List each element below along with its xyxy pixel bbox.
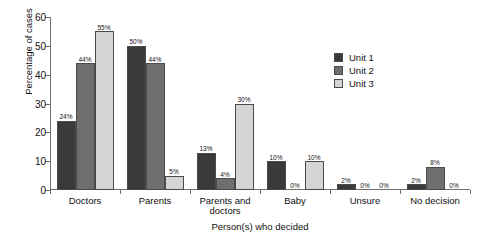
bar-value-label: 10% — [269, 155, 282, 162]
bar-value-label: 0% — [360, 183, 369, 190]
bar[interactable]: 5% — [165, 176, 184, 190]
bar-group-bars: 2%0%0% — [337, 17, 394, 190]
bar-group: 50%44%5%Parents — [120, 17, 190, 190]
bar[interactable]: 24% — [57, 121, 76, 190]
bar-group: 13%4%30%Parents and doctors — [190, 17, 260, 190]
bar-value-label: 0% — [449, 183, 458, 190]
y-tick-label: 50 — [35, 40, 46, 51]
y-tick-label: 40 — [35, 69, 46, 80]
bar[interactable]: 44% — [76, 63, 95, 190]
bar[interactable]: 30% — [235, 104, 254, 191]
legend-label: Unit 1 — [349, 52, 374, 63]
bar-value-label: 30% — [237, 97, 250, 104]
bar[interactable]: 50% — [127, 46, 146, 190]
x-tick-mark — [330, 190, 331, 194]
bar-value-label: 44% — [148, 57, 161, 64]
bar[interactable]: 2% — [337, 184, 356, 190]
bar-group-bars: 2%8%0% — [407, 17, 464, 190]
bar-value-label: 2% — [341, 178, 350, 185]
bar-value-label: 4% — [220, 172, 229, 179]
x-tick-mark — [50, 190, 51, 194]
bar-groups: 24%44%55%Doctors50%44%5%Parents13%4%30%P… — [50, 17, 470, 190]
bar-group: 2%8%0%No decision — [400, 17, 470, 190]
legend-label: Unit 2 — [349, 65, 374, 76]
bar-group: 2%0%0%Unsure — [330, 17, 400, 190]
legend-item[interactable]: Unit 1 — [334, 52, 374, 63]
bar-value-label: 10% — [307, 155, 320, 162]
bar-value-label: 24% — [59, 114, 72, 121]
bar[interactable]: 55% — [95, 31, 114, 190]
bar-group: 10%0%10%Baby — [260, 17, 330, 190]
x-tick-label: Baby — [260, 196, 330, 206]
bar[interactable]: 4% — [216, 178, 235, 190]
bar-value-label: 5% — [169, 169, 178, 176]
y-tick-label: 0 — [40, 185, 46, 196]
bar-group-bars: 24%44%55% — [57, 17, 114, 190]
x-tick-mark — [120, 190, 121, 194]
x-tick-mark — [470, 190, 471, 194]
bar-group-bars: 50%44%5% — [127, 17, 184, 190]
legend-swatch-icon — [334, 53, 343, 62]
y-tick-label: 20 — [35, 127, 46, 138]
bar[interactable]: 44% — [146, 63, 165, 190]
legend-label: Unit 3 — [349, 78, 374, 89]
bar-value-label: 13% — [199, 146, 212, 153]
bar-value-label: 44% — [78, 57, 91, 64]
bar[interactable]: 8% — [426, 167, 445, 190]
legend-swatch-icon — [334, 79, 343, 88]
legend-swatch-icon — [334, 66, 343, 75]
bar[interactable]: 13% — [197, 153, 216, 190]
bar-value-label: 0% — [290, 183, 299, 190]
y-tick-label: 30 — [35, 98, 46, 109]
bar-group-bars: 13%4%30% — [197, 17, 254, 190]
y-tick-label: 10 — [35, 156, 46, 167]
bar[interactable]: 2% — [407, 184, 426, 190]
x-tick-label: No decision — [400, 196, 470, 206]
bar-group: 24%44%55%Doctors — [50, 17, 120, 190]
bar-group-bars: 10%0%10% — [267, 17, 324, 190]
legend-item[interactable]: Unit 3 — [334, 78, 374, 89]
x-tick-mark — [190, 190, 191, 194]
bar[interactable]: 10% — [267, 161, 286, 190]
bar-value-label: 8% — [430, 160, 439, 167]
x-tick-label: Unsure — [330, 196, 400, 206]
bar-value-label: 55% — [97, 25, 110, 32]
bar[interactable]: 10% — [305, 161, 324, 190]
bar-value-label: 50% — [129, 39, 142, 46]
legend: Unit 1Unit 2Unit 3 — [334, 52, 374, 91]
bar-value-label: 2% — [411, 178, 420, 185]
plot-area: 0102030405060 24%44%55%Doctors50%44%5%Pa… — [50, 17, 470, 190]
y-axis-title: Percentage of cases — [23, 0, 34, 132]
x-tick-label: Doctors — [50, 196, 120, 206]
bar-value-label: 0% — [379, 183, 388, 190]
x-tick-mark — [260, 190, 261, 194]
x-tick-label: Parents — [120, 196, 190, 206]
y-tick-label: 60 — [35, 12, 46, 23]
x-tick-label: Parents and doctors — [190, 196, 260, 217]
x-tick-mark — [400, 190, 401, 194]
legend-item[interactable]: Unit 2 — [334, 65, 374, 76]
x-axis-title: Person(s) who decided — [50, 221, 470, 232]
bar-chart: Percentage of cases 0102030405060 24%44%… — [0, 0, 485, 250]
